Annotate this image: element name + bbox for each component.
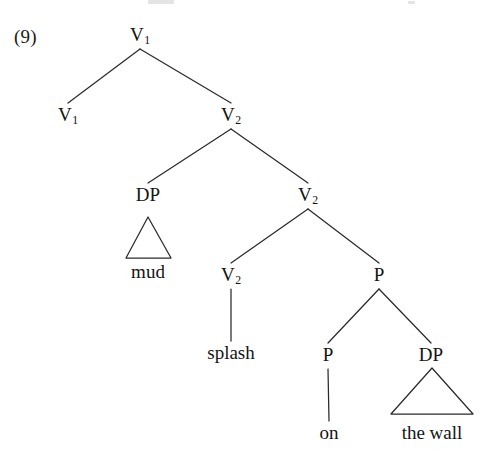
node-p-upper-text: P xyxy=(374,264,385,285)
node-v1-root-subscript: 1 xyxy=(144,34,150,47)
branch-root-to-v2-upper xyxy=(140,49,231,103)
leaf-splash: splash xyxy=(207,343,255,362)
node-v2-upper-text: V xyxy=(221,104,235,125)
node-v2-mid-subscript: 2 xyxy=(312,194,318,207)
node-v2-splash: V2 xyxy=(221,265,241,284)
node-p-on-text: P xyxy=(323,344,334,365)
branch-v2mid-to-p xyxy=(308,209,379,263)
branch-p-to-dp-wall xyxy=(379,289,431,343)
branch-v2upper-to-dp xyxy=(148,129,231,183)
triangle-the-wall xyxy=(391,368,473,414)
branch-root-to-v1-left xyxy=(68,49,140,103)
node-v1-left-text: V xyxy=(58,104,72,125)
tree-branch-lines xyxy=(0,0,496,461)
node-dp-the-wall-text: DP xyxy=(419,344,443,365)
node-v2-mid: V2 xyxy=(298,185,318,204)
node-v1-root-text: V xyxy=(130,24,144,45)
branch-p-to-p-on xyxy=(328,289,379,343)
node-v1-left-subscript: 1 xyxy=(72,114,78,127)
node-p-on: P xyxy=(323,345,334,364)
node-v2-splash-text: V xyxy=(221,264,235,285)
node-v2-mid-text: V xyxy=(298,184,312,205)
stem-p-to-on xyxy=(328,369,329,421)
node-v1-root: V1 xyxy=(130,25,150,44)
branch-v2upper-to-v2mid xyxy=(231,129,308,183)
node-dp-mud: DP xyxy=(136,185,160,204)
node-v2-upper: V2 xyxy=(221,105,241,124)
node-v2-upper-subscript: 2 xyxy=(235,114,241,127)
node-dp-the-wall: DP xyxy=(419,345,443,364)
leaf-on: on xyxy=(320,423,339,442)
node-v2-splash-subscript: 2 xyxy=(235,274,241,287)
triangle-mud xyxy=(126,217,171,258)
leaf-mud: mud xyxy=(131,262,165,281)
node-p-upper: P xyxy=(374,265,385,284)
node-dp-mud-text: DP xyxy=(136,184,160,205)
syntax-tree-figure: (9) V1V1V2DPV2V2PPDP mudsplashonthe wall xyxy=(0,0,496,461)
leaf-the-wall: the wall xyxy=(402,423,463,442)
branch-v2mid-to-v2splash xyxy=(231,209,308,263)
node-v1-left: V1 xyxy=(58,105,78,124)
